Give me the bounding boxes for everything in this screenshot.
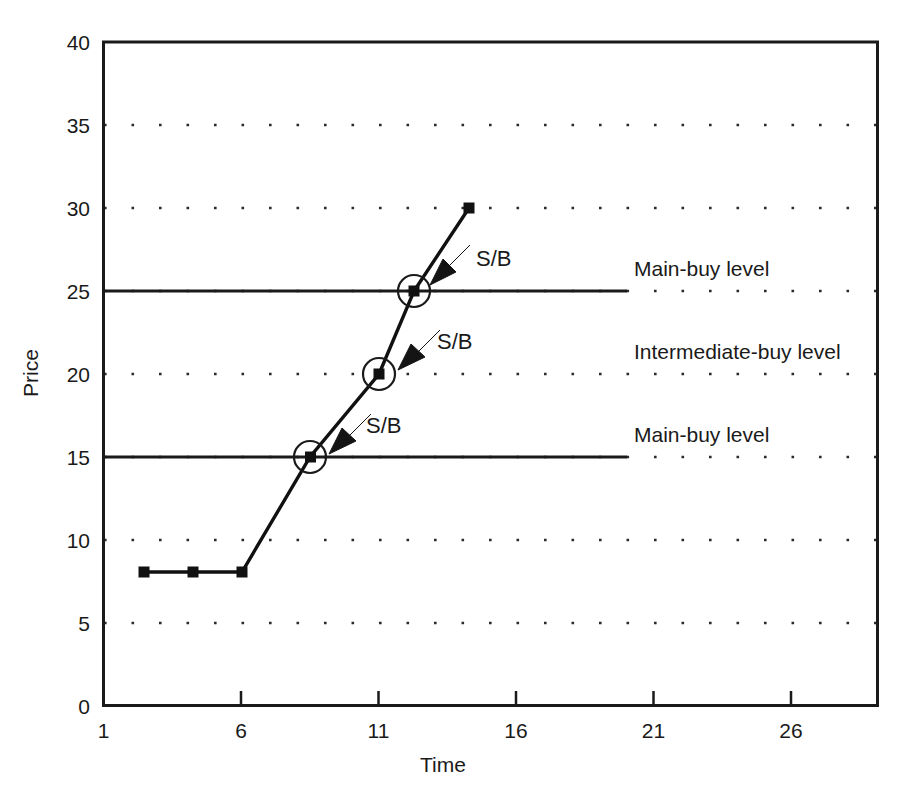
x-axis-title: Time	[420, 753, 466, 776]
x-tick-label-16: 16	[504, 719, 527, 742]
y-tick-label-40: 40	[67, 31, 90, 54]
x-tick-label-11: 11	[368, 719, 390, 742]
x-tick-label-21: 21	[642, 719, 665, 742]
x-tick-label-1: 1	[98, 719, 110, 742]
y-tick-label-20: 20	[67, 363, 90, 386]
data-point-marker-6	[409, 286, 420, 297]
data-point-marker-5	[374, 369, 385, 380]
x-tick-label-6: 6	[235, 719, 247, 742]
y-tick-label-15: 15	[67, 446, 90, 469]
chart-canvas: 40 35 30 25 20 15 10 5 0 1 6 11 16 21 26…	[0, 0, 905, 790]
y-tick-label-5: 5	[78, 612, 90, 635]
y-tick-label-0: 0	[78, 695, 90, 718]
level-label-main-buy-upper: Main-buy level	[634, 257, 769, 280]
sb-label-lower: S/B	[366, 413, 401, 438]
data-point-marker-1	[139, 567, 150, 578]
data-point-marker-7	[464, 203, 475, 214]
data-point-marker-4	[305, 452, 316, 463]
price-time-chart: 40 35 30 25 20 15 10 5 0 1 6 11 16 21 26…	[0, 0, 905, 790]
chart-background	[0, 0, 905, 790]
y-tick-label-30: 30	[67, 197, 90, 220]
sb-label-middle: S/B	[437, 329, 472, 354]
level-label-intermediate-buy: Intermediate-buy level	[634, 340, 841, 363]
y-tick-label-35: 35	[67, 114, 90, 137]
y-tick-label-10: 10	[67, 529, 90, 552]
x-tick-label-26: 26	[779, 719, 802, 742]
data-point-marker-3	[237, 567, 248, 578]
data-point-marker-2	[188, 567, 199, 578]
sb-label-upper: S/B	[476, 246, 511, 271]
y-tick-label-25: 25	[67, 280, 90, 303]
level-label-main-buy-lower: Main-buy level	[634, 423, 769, 446]
y-axis-title: Price	[19, 349, 42, 397]
